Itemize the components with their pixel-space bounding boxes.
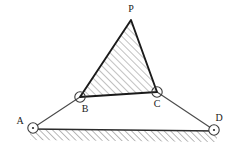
label-d: D xyxy=(215,112,222,123)
label-p: P xyxy=(128,3,134,14)
link-cd xyxy=(157,92,214,130)
coupler-triangle-pbc xyxy=(80,20,157,97)
pivot-dot-a xyxy=(32,127,34,129)
label-a: A xyxy=(16,115,24,126)
link-ab xyxy=(33,97,80,128)
mechanism-figure: A B C D P xyxy=(0,0,240,151)
mechanism-diagram: A B C D P xyxy=(0,0,240,151)
label-b: B xyxy=(82,103,89,114)
pivot-dot-d xyxy=(213,129,215,131)
label-c: C xyxy=(154,98,161,109)
